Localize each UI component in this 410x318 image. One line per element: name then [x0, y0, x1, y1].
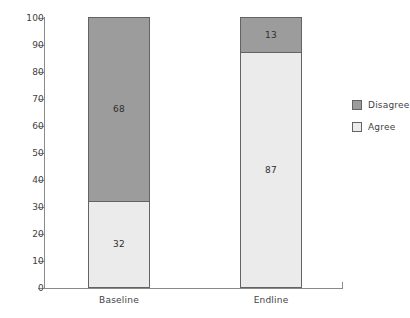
y-axis-tick-label: 100	[10, 14, 44, 23]
legend-swatch-icon	[352, 122, 362, 132]
x-axis-label-endline: Endline	[216, 295, 326, 305]
bar-segment-endline-agree: 87	[240, 52, 302, 288]
bar-baseline: 3268	[88, 18, 150, 288]
x-axis-end-tick	[342, 282, 343, 289]
bar-value-label: 87	[265, 166, 277, 175]
y-axis-tick-label: 90	[10, 41, 44, 50]
legend-item-disagree[interactable]: Disagree	[352, 100, 410, 110]
y-axis-tick-label: 40	[10, 176, 44, 185]
y-axis-tick-label: 50	[10, 149, 44, 158]
x-axis-line	[44, 288, 343, 289]
y-axis-tick-label: 70	[10, 95, 44, 104]
bar-segment-endline-disagree: 13	[240, 17, 302, 53]
y-axis-tick-label: 20	[10, 230, 44, 239]
y-axis-tick-label: 10	[10, 257, 44, 266]
legend-label: Disagree	[368, 101, 410, 110]
bar-endline: 8713	[240, 18, 302, 288]
legend-label: Agree	[368, 123, 395, 132]
bar-segment-baseline-disagree: 68	[88, 17, 150, 202]
bar-value-label: 13	[265, 31, 277, 40]
bar-value-label: 32	[113, 240, 125, 249]
legend-swatch-icon	[352, 100, 362, 110]
chart-legend: DisagreeAgree	[352, 100, 410, 144]
y-axis-tick-label: 80	[10, 68, 44, 77]
legend-item-agree[interactable]: Agree	[352, 122, 410, 132]
bar-value-label: 68	[113, 105, 125, 114]
y-axis-tick-label: 60	[10, 122, 44, 131]
y-axis-tick-label: 0	[10, 284, 44, 293]
y-axis-tick-label: 30	[10, 203, 44, 212]
bar-segment-baseline-agree: 32	[88, 201, 150, 288]
x-axis-label-baseline: Baseline	[64, 295, 174, 305]
plot-area: 32688713	[44, 18, 342, 288]
